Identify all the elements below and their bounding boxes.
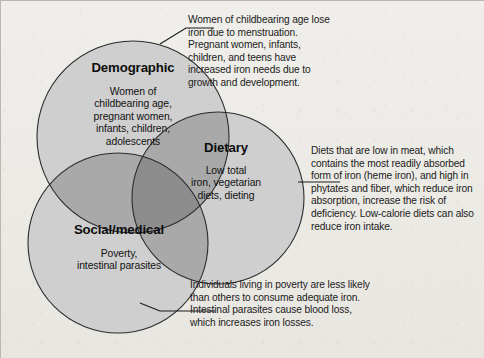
circle-title-dietary: Dietary: [162, 140, 290, 155]
circle-body-social-medical: Poverty, intestinal parasites: [28, 248, 210, 273]
annotation-demographic: Women of childbearing age lose iron due …: [188, 14, 338, 90]
annotation-dietary: Diets that are low in meat, which contai…: [311, 145, 479, 233]
annotation-social-medical: Individuals living in poverty are less l…: [190, 279, 370, 329]
circle-body-dietary: Low total iron, vegetarian diets, dietin…: [158, 165, 294, 202]
circle-title-social-medical: Social/medical: [30, 222, 208, 237]
diagram-canvas: Demographic Women of childbearing age, p…: [0, 0, 484, 358]
circle-body-demographic: Women of childbearing age, pregnant wome…: [46, 86, 220, 148]
